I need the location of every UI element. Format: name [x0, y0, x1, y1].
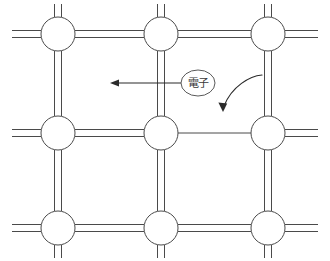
hole-arrow-head — [218, 103, 227, 113]
lattice-diagram-canvas: 電子 — [0, 0, 330, 261]
bond-bottom-center-to-bottom-right — [178, 225, 251, 232]
electron-arrow-head — [110, 80, 119, 87]
bond-top-center-top-stub — [158, 4, 165, 17]
bond-bottom-right-bottom-stub — [265, 245, 272, 258]
bond-top-left-stub — [12, 31, 41, 38]
bond-top-left-to-top-center — [75, 31, 144, 38]
bond-middle-right-stub — [285, 130, 318, 137]
atom-bottom-center — [144, 211, 178, 245]
atom-top-center — [144, 17, 178, 51]
electron-motion-arrow — [110, 80, 181, 87]
crystal-lattice-figure: 電子 — [0, 0, 330, 261]
bond-middle-center-to-bottom-center — [158, 150, 165, 211]
bond-bottom-left-bottom-stub — [55, 245, 62, 258]
atom-bottom-right — [251, 211, 285, 245]
bond-top-right-to-middle-right — [265, 51, 272, 116]
bond-middle-left-to-middle-center — [75, 130, 144, 137]
electron-label: 電子 — [181, 70, 215, 96]
atom-bottom-left — [41, 211, 75, 245]
atoms-layer — [41, 17, 285, 245]
atom-top-right — [251, 17, 285, 51]
bond-top-right-top-stub — [265, 4, 272, 17]
bond-middle-right-to-bottom-right — [265, 150, 272, 211]
electron-label-text: 電子 — [188, 77, 210, 90]
bond-middle-left-stub — [12, 130, 41, 137]
bond-bottom-right-stub — [285, 225, 318, 232]
hole-motion-arrow — [218, 75, 262, 112]
atom-top-left — [41, 17, 75, 51]
atom-middle-center — [144, 116, 178, 150]
bond-bottom-left-stub — [12, 225, 41, 232]
bond-middle-left-to-bottom-left — [55, 150, 62, 211]
bond-top-right-stub — [285, 31, 318, 38]
bond-top-left-top-stub — [55, 4, 62, 17]
hole-arrow-curve — [224, 75, 262, 106]
bond-top-left-to-middle-left — [55, 51, 62, 116]
atom-middle-left — [41, 116, 75, 150]
atom-middle-right — [251, 116, 285, 150]
bond-bottom-center-bottom-stub — [158, 245, 165, 258]
bond-top-center-to-top-right — [178, 31, 251, 38]
bond-bottom-left-to-bottom-center — [75, 225, 144, 232]
